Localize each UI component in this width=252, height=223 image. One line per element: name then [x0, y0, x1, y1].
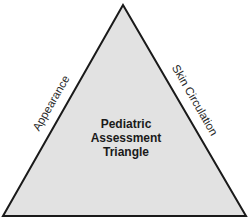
pediatric-assessment-triangle-diagram: Appearance Skin Circulation Pediatric As…	[0, 0, 252, 223]
title-line-2: Assessment	[76, 131, 176, 145]
triangle-title: Pediatric Assessment Triangle	[76, 117, 176, 159]
title-line-3: Triangle	[76, 145, 176, 159]
title-line-1: Pediatric	[76, 117, 176, 131]
